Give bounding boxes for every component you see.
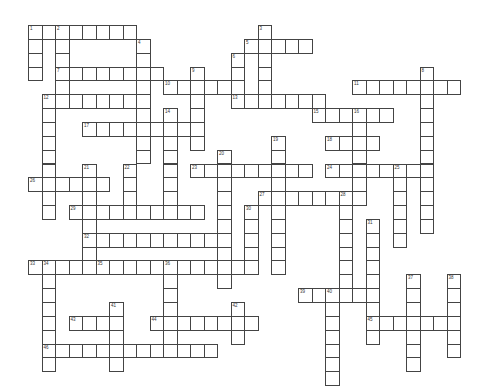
- crossword-cell[interactable]: [190, 108, 205, 123]
- crossword-cell[interactable]: [177, 316, 192, 331]
- crossword-cell[interactable]: [177, 233, 192, 248]
- crossword-cell[interactable]: 40: [325, 288, 340, 303]
- crossword-cell[interactable]: 12: [42, 94, 57, 109]
- crossword-cell[interactable]: [244, 94, 259, 109]
- crossword-cell[interactable]: 11: [352, 80, 367, 95]
- crossword-cell[interactable]: [271, 177, 286, 192]
- crossword-cell[interactable]: [177, 344, 192, 359]
- crossword-cell[interactable]: [366, 80, 381, 95]
- crossword-cell[interactable]: [190, 80, 205, 95]
- crossword-cell[interactable]: [352, 164, 367, 179]
- crossword-cell[interactable]: 7: [55, 67, 70, 82]
- crossword-cell[interactable]: [325, 330, 340, 345]
- crossword-cell[interactable]: 24: [325, 164, 340, 179]
- crossword-cell[interactable]: [55, 260, 70, 275]
- crossword-cell[interactable]: [136, 260, 151, 275]
- crossword-cell[interactable]: [393, 191, 408, 206]
- crossword-cell[interactable]: [339, 274, 354, 289]
- crossword-cell[interactable]: [96, 67, 111, 82]
- crossword-cell[interactable]: [339, 108, 354, 123]
- crossword-cell[interactable]: [352, 122, 367, 137]
- crossword-cell[interactable]: [339, 260, 354, 275]
- crossword-cell[interactable]: [325, 108, 340, 123]
- crossword-cell[interactable]: [136, 344, 151, 359]
- crossword-cell[interactable]: [325, 357, 340, 372]
- crossword-cell[interactable]: [82, 247, 97, 262]
- crossword-cell[interactable]: [190, 260, 205, 275]
- crossword-cell[interactable]: [285, 39, 300, 54]
- crossword-cell[interactable]: [109, 67, 124, 82]
- crossword-cell[interactable]: [177, 122, 192, 137]
- crossword-cell[interactable]: [136, 80, 151, 95]
- crossword-cell[interactable]: [55, 53, 70, 68]
- crossword-cell[interactable]: [406, 164, 421, 179]
- crossword-cell[interactable]: [366, 108, 381, 123]
- crossword-cell[interactable]: [312, 288, 327, 303]
- crossword-cell[interactable]: [28, 53, 43, 68]
- crossword-cell[interactable]: 20: [217, 150, 232, 165]
- crossword-cell[interactable]: [393, 177, 408, 192]
- crossword-cell[interactable]: [433, 80, 448, 95]
- crossword-cell[interactable]: [42, 205, 57, 220]
- crossword-cell[interactable]: [339, 247, 354, 262]
- crossword-cell[interactable]: [217, 205, 232, 220]
- crossword-cell[interactable]: [150, 233, 165, 248]
- crossword-cell[interactable]: 30: [244, 205, 259, 220]
- crossword-cell[interactable]: [42, 316, 57, 331]
- crossword-cell[interactable]: 41: [109, 302, 124, 317]
- crossword-cell[interactable]: [123, 94, 138, 109]
- crossword-cell[interactable]: [339, 205, 354, 220]
- crossword-cell[interactable]: 9: [190, 67, 205, 82]
- crossword-cell[interactable]: [190, 233, 205, 248]
- crossword-cell[interactable]: 37: [406, 274, 421, 289]
- crossword-cell[interactable]: [298, 94, 313, 109]
- crossword-cell[interactable]: [82, 177, 97, 192]
- crossword-cell[interactable]: [109, 316, 124, 331]
- crossword-cell[interactable]: 26: [28, 177, 43, 192]
- crossword-cell[interactable]: [42, 177, 57, 192]
- crossword-cell[interactable]: [244, 260, 259, 275]
- crossword-cell[interactable]: [217, 316, 232, 331]
- crossword-cell[interactable]: [312, 94, 327, 109]
- crossword-cell[interactable]: [96, 233, 111, 248]
- crossword-cell[interactable]: [231, 330, 246, 345]
- crossword-cell[interactable]: [420, 164, 435, 179]
- crossword-cell[interactable]: [271, 219, 286, 234]
- crossword-cell[interactable]: [42, 357, 57, 372]
- crossword-cell[interactable]: 33: [28, 260, 43, 275]
- crossword-cell[interactable]: [258, 67, 273, 82]
- crossword-cell[interactable]: [163, 122, 178, 137]
- crossword-cell[interactable]: [204, 164, 219, 179]
- crossword-cell[interactable]: [55, 39, 70, 54]
- crossword-cell[interactable]: [366, 274, 381, 289]
- crossword-cell[interactable]: [136, 94, 151, 109]
- crossword-cell[interactable]: [285, 191, 300, 206]
- crossword-cell[interactable]: [123, 233, 138, 248]
- crossword-cell[interactable]: [136, 53, 151, 68]
- crossword-cell[interactable]: [136, 108, 151, 123]
- crossword-cell[interactable]: [325, 302, 340, 317]
- crossword-cell[interactable]: [96, 122, 111, 137]
- crossword-cell[interactable]: [447, 344, 462, 359]
- crossword-cell[interactable]: [352, 288, 367, 303]
- crossword-cell[interactable]: [82, 316, 97, 331]
- crossword-cell[interactable]: [217, 233, 232, 248]
- crossword-cell[interactable]: [204, 233, 219, 248]
- crossword-cell[interactable]: [406, 288, 421, 303]
- crossword-cell[interactable]: [42, 25, 57, 40]
- crossword-cell[interactable]: 10: [163, 80, 178, 95]
- crossword-cell[interactable]: [42, 191, 57, 206]
- crossword-cell[interactable]: 25: [393, 164, 408, 179]
- crossword-cell[interactable]: [258, 39, 273, 54]
- crossword-cell[interactable]: [312, 191, 327, 206]
- crossword-cell[interactable]: 13: [231, 94, 246, 109]
- crossword-cell[interactable]: [82, 260, 97, 275]
- crossword-cell[interactable]: [190, 94, 205, 109]
- crossword-cell[interactable]: [28, 39, 43, 54]
- crossword-cell[interactable]: [150, 122, 165, 137]
- crossword-cell[interactable]: 3: [258, 25, 273, 40]
- crossword-cell[interactable]: [204, 316, 219, 331]
- crossword-cell[interactable]: [406, 330, 421, 345]
- crossword-cell[interactable]: [190, 316, 205, 331]
- crossword-cell[interactable]: [271, 191, 286, 206]
